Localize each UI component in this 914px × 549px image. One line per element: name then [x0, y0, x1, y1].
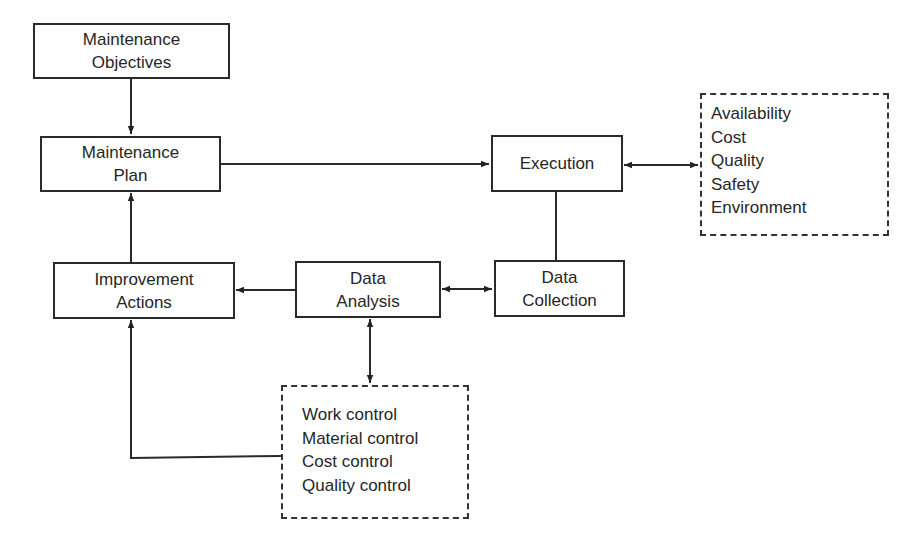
list-item: Cost control: [302, 450, 467, 474]
node-label: Execution: [520, 152, 595, 175]
control-functions-list: Work control Material control Cost contr…: [281, 385, 469, 519]
node-data-analysis: Data Analysis: [295, 261, 441, 318]
list-item: Availability: [711, 102, 887, 126]
list-item: Environment: [711, 196, 887, 220]
node-label: Plan: [113, 164, 147, 187]
node-label: Actions: [116, 291, 172, 314]
list-item: Quality: [711, 149, 887, 173]
edge-control-improvement: [131, 320, 281, 458]
node-maintenance-plan: Maintenance Plan: [40, 136, 221, 192]
list-item: Work control: [302, 403, 467, 427]
node-label: Maintenance: [82, 141, 179, 164]
list-item: Safety: [711, 173, 887, 197]
list-item: Quality control: [302, 474, 467, 498]
list-item: Material control: [302, 427, 467, 451]
node-label: Data: [542, 266, 578, 289]
performance-measures-list: Availability Cost Quality Safety Environ…: [700, 93, 889, 236]
node-execution: Execution: [491, 135, 623, 192]
node-label: Analysis: [336, 290, 399, 313]
node-label: Maintenance: [83, 28, 180, 51]
node-label: Improvement: [94, 268, 193, 291]
node-improvement-actions: Improvement Actions: [53, 262, 235, 319]
node-label: Data: [350, 267, 386, 290]
node-label: Collection: [522, 289, 597, 312]
node-label: Objectives: [92, 51, 171, 74]
node-data-collection: Data Collection: [494, 260, 625, 317]
node-maintenance-objectives: Maintenance Objectives: [33, 23, 230, 79]
list-item: Cost: [711, 126, 887, 150]
